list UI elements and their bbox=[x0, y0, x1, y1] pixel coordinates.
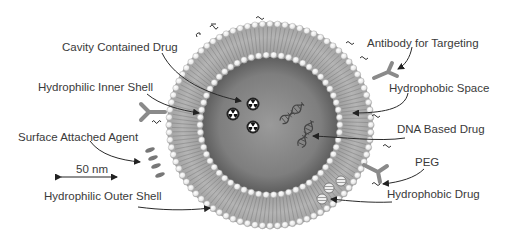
label-hydrophilic-outer-shell: Hydrophilic Outer Shell bbox=[44, 191, 162, 203]
label-peg: PEG bbox=[415, 157, 439, 169]
label-surface-attached-agent: Surface Attached Agent bbox=[18, 132, 138, 144]
radiation-icon bbox=[247, 98, 260, 111]
label-dna-based-drug: DNA Based Drug bbox=[397, 124, 485, 136]
surface-agent-icon bbox=[145, 146, 166, 178]
label-scale-bar: 50 nm bbox=[76, 164, 108, 176]
label-hydrophobic-drug: Hydrophobic Drug bbox=[387, 189, 480, 201]
label-hydrophobic-space: Hydrophobic Space bbox=[389, 83, 489, 95]
label-hydrophilic-inner-shell: Hydrophilic Inner Shell bbox=[38, 82, 153, 94]
label-antibody-for-targeting: Antibody for Targeting bbox=[367, 38, 479, 50]
liposome-diagram: Cavity Contained Drug Hydrophilic Inner … bbox=[0, 0, 505, 235]
radiation-icon bbox=[227, 108, 240, 121]
label-cavity-contained-drug: Cavity Contained Drug bbox=[62, 42, 178, 54]
radiation-icon bbox=[247, 121, 260, 134]
